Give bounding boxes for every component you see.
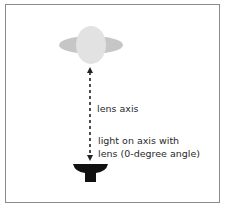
arrow-down-icon xyxy=(87,155,93,161)
light-label-line2: lens (0-degree angle) xyxy=(98,148,200,160)
lens-icon xyxy=(59,26,123,64)
light-label-line1: light on axis with xyxy=(98,135,179,147)
lens-axis-arrow xyxy=(87,67,93,161)
lens-axis-label: lens axis xyxy=(97,103,139,115)
arrow-up-icon xyxy=(87,67,93,73)
light-source-icon xyxy=(73,164,108,182)
